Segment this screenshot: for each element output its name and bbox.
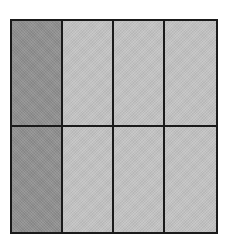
unshaded-cell (63, 21, 114, 127)
diagram-canvas (0, 0, 228, 239)
shaded-cell (12, 127, 63, 233)
shaded-cell (12, 21, 63, 127)
unshaded-cell (63, 127, 114, 233)
unshaded-cell (114, 127, 165, 233)
unshaded-cell (165, 21, 216, 127)
unshaded-cell (114, 21, 165, 127)
fraction-grid (10, 19, 218, 234)
unshaded-cell (165, 127, 216, 233)
